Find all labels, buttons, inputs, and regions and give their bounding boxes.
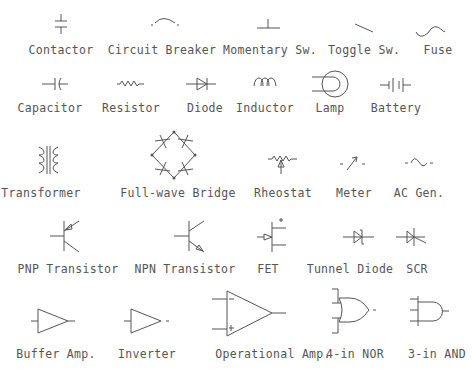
- label-fet: FET: [257, 262, 279, 276]
- resistor-icon: [117, 81, 144, 86]
- label-lamp: Lamp: [316, 101, 345, 115]
- contactor-icon: [55, 14, 67, 34]
- diode-icon: [186, 78, 216, 90]
- label-diode: Diode: [187, 101, 223, 115]
- label-full-wave-bridge: Full-wave Bridge: [120, 186, 236, 200]
- scr-icon: [396, 228, 426, 246]
- label-meter: Meter: [336, 186, 372, 200]
- lamp-icon: [312, 71, 348, 97]
- label-momentary-switch: Momentary Sw.: [223, 43, 317, 57]
- 3-in-and-icon: [410, 296, 449, 326]
- 4-in-nor-icon: [332, 289, 376, 333]
- tunnel-diode-icon: [343, 230, 374, 244]
- label-fuse: Fuse: [424, 43, 453, 57]
- operational-amp-icon: [212, 291, 286, 336]
- toggle-switch-icon: [355, 24, 373, 32]
- label-tunnel-diode: Tunnel Diode: [307, 262, 394, 276]
- label-circuit-breaker: Circuit Breaker: [108, 43, 216, 57]
- meter-icon: [340, 157, 365, 170]
- circuit-breaker-icon: [151, 19, 179, 26]
- label-toggle-switch: Toggle Sw.: [328, 43, 400, 57]
- label-scr: SCR: [406, 262, 428, 276]
- label-battery: Battery: [371, 101, 422, 115]
- label-contactor: Contactor: [28, 43, 93, 57]
- label-resistor: Resistor: [102, 101, 160, 115]
- buffer-amp-icon: [31, 309, 75, 333]
- label-ac-generator: AC Gen.: [394, 186, 445, 200]
- capacitor-icon: [42, 78, 68, 90]
- label-3-in-and: 3-in AND: [408, 347, 466, 361]
- ac-generator-icon: [405, 159, 433, 166]
- label-operational-amp: Operational Amp.: [215, 347, 331, 361]
- inductor-icon: [254, 78, 276, 86]
- momentary-switch-icon: [257, 19, 280, 28]
- label-pnp-transistor: PNP Transistor: [17, 262, 118, 276]
- inverter-icon: [124, 309, 169, 333]
- fuse-icon: [416, 27, 445, 37]
- label-inductor: Inductor: [236, 101, 294, 115]
- label-buffer-amp: Buffer Amp.: [16, 347, 95, 361]
- npn-transistor-icon: [174, 221, 204, 252]
- pnp-transistor-icon: [50, 221, 79, 252]
- label-inverter: Inverter: [118, 347, 176, 361]
- transformer-icon: [39, 146, 58, 174]
- rheostat-icon: [268, 156, 297, 174]
- label-capacitor: Capacitor: [17, 101, 82, 115]
- fet-icon: [257, 218, 286, 252]
- label-rheostat: Rheostat: [254, 186, 312, 200]
- label-transformer: Transformer: [1, 186, 80, 200]
- battery-icon: [380, 78, 411, 92]
- label-npn-transistor: NPN Transistor: [134, 262, 235, 276]
- label-4-in-nor: 4-in NOR: [326, 347, 384, 361]
- full-wave-bridge-icon: [151, 131, 197, 180]
